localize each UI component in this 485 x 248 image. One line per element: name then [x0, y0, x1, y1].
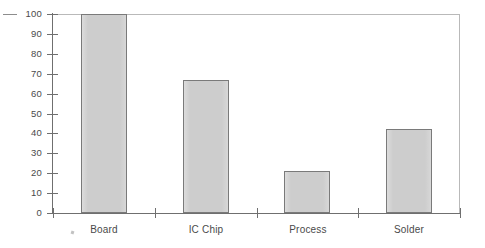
y-axis-tick-label: 50 — [12, 109, 42, 119]
bar-process — [284, 171, 330, 213]
x-axis-label-ic-chip: IC Chip — [155, 224, 257, 236]
x-axis-label-board: Board — [53, 224, 155, 236]
y-axis-tick — [47, 94, 58, 95]
y-axis-tick-label: 10 — [12, 188, 42, 198]
bar-ic-chip — [183, 80, 229, 213]
y-axis-tick — [47, 133, 58, 134]
y-axis-tick — [47, 173, 58, 174]
x-axis-tick — [358, 208, 359, 218]
y-axis-tick-label: 60 — [12, 89, 42, 99]
x-axis-label-process: Process — [257, 224, 359, 236]
y-axis-tick — [47, 74, 58, 75]
y-axis-tick — [47, 114, 58, 115]
y-axis-tick-label: 90 — [12, 29, 42, 39]
y-axis-tick-label: 20 — [12, 168, 42, 178]
x-axis-tick — [257, 208, 258, 218]
y-axis-tick — [47, 153, 58, 154]
y-axis-tick-label: 80 — [12, 49, 42, 59]
y-axis-tick — [47, 193, 58, 194]
bar-chart: 1009080706050403020100 BoardIC ChipProce… — [0, 0, 485, 248]
y-axis-tick — [47, 34, 58, 35]
x-axis-tick — [53, 208, 54, 218]
y-axis-tick-label: 0 — [12, 208, 42, 218]
y-axis-tick-label: 70 — [12, 69, 42, 79]
y-axis-tick-label: 40 — [12, 128, 42, 138]
bar-solder — [386, 129, 432, 213]
y-axis-tick-label: 30 — [12, 148, 42, 158]
x-axis-tick — [155, 208, 156, 218]
x-axis-tick — [460, 208, 461, 218]
y-axis-tick-label: 100 — [12, 9, 42, 19]
y-axis-tick — [47, 14, 58, 15]
x-axis-label-solder: Solder — [358, 224, 460, 236]
bar-board — [81, 14, 127, 213]
y-axis-tick — [47, 54, 58, 55]
